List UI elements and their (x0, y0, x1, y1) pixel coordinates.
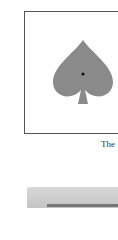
spade-icon (49, 38, 117, 104)
photo-detail (47, 204, 118, 207)
figure-caption: The (101, 139, 115, 149)
